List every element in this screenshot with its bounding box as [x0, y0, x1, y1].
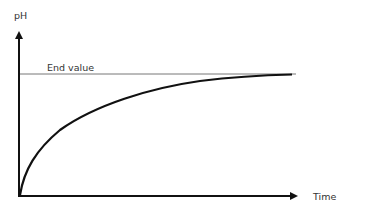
y-axis-label: pH [14, 10, 27, 21]
end-value-label: End value [47, 62, 94, 73]
ph-curve [20, 75, 292, 196]
x-axis-label: Time [313, 191, 336, 202]
chart-canvas [0, 0, 366, 213]
